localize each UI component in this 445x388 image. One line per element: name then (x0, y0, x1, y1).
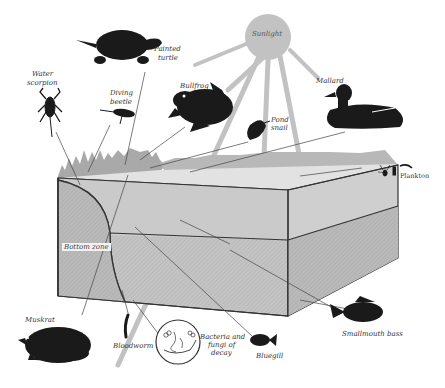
sunlight-label: Sunlight (252, 30, 282, 38)
plankton-label: Plankton (400, 172, 429, 180)
muskrat-icon (18, 327, 91, 363)
bluegill-icon (250, 334, 277, 346)
bacteria-label-line2: fungi of (208, 341, 235, 349)
diving-beetle-label-line1: Diving (110, 89, 133, 97)
bloodworm-label: Bloodworm (113, 342, 153, 350)
painted-turtle-label-line1: Painted (154, 45, 181, 53)
bluegill-label: Bluegill (256, 352, 283, 360)
bottom-zone-label: Bottom zone (62, 243, 111, 251)
bloodworm-icon (125, 315, 128, 337)
pond-snail-label-line2: snail (271, 124, 288, 132)
painted-turtle-label-line2: turtle (158, 54, 178, 62)
water-scorpion-icon (38, 88, 62, 137)
mallard-icon (324, 84, 403, 129)
water-scorpion-label-line2: scorpion (27, 79, 58, 87)
diving-beetle-label-line2: beetle (110, 98, 132, 106)
bacteria-label-line3: decay (211, 349, 232, 357)
bacteria-fungi-icon (156, 320, 200, 364)
smallmouth-bass-label: Smallmouth bass (342, 330, 403, 338)
pond-snail-label-line1: Pond (271, 116, 289, 124)
muskrat-label: Muskrat (25, 316, 55, 324)
mallard-label: Mallard (316, 77, 344, 85)
water-scorpion-label-line1: Water (32, 70, 53, 78)
pond-ecosystem-diagram: Sunlight Painted turtle Water scorpion D… (0, 0, 445, 388)
bullfrog-label: Bullfrog (180, 82, 209, 90)
painted-turtle-icon (76, 30, 162, 64)
diving-beetle-icon (100, 108, 135, 124)
smallmouth-bass-icon (330, 296, 383, 322)
bacteria-label-line1: Bacteria and (200, 333, 245, 341)
